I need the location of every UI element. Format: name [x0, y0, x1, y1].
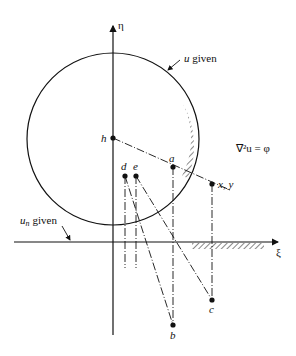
point-b: [170, 322, 175, 327]
point-c: [209, 297, 214, 302]
label-b: b: [170, 329, 176, 341]
un-given-leader: [62, 226, 70, 240]
label-h: h: [101, 132, 107, 144]
point-a: [170, 164, 175, 169]
point-e: [133, 173, 138, 178]
equation: ∇²u = φ: [235, 142, 270, 154]
point-xy: [209, 181, 214, 186]
label-d: d: [121, 160, 127, 172]
hatched-region-circle: [182, 104, 194, 178]
u-given-leader: [168, 60, 180, 70]
hatched-region-axis: [192, 243, 264, 249]
u-given-label: u given: [184, 52, 217, 64]
xi-label: ξ: [276, 246, 281, 259]
point-d: [122, 173, 127, 178]
label-c: c: [209, 303, 214, 315]
label-xy: x, y: [217, 178, 233, 190]
laplace-image-method-diagram: η ξ u given ungiven ∇²u = φ h a d e x, y…: [0, 0, 296, 356]
un-given-label: ungiven: [20, 214, 57, 228]
eta-label: η: [118, 19, 124, 31]
label-a: a: [169, 152, 175, 164]
point-h: [110, 135, 115, 140]
label-e: e: [133, 160, 138, 172]
